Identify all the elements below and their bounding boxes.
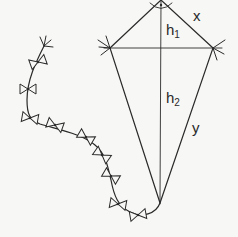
kite-figure (0, 0, 238, 237)
right-angle-dot (160, 4, 162, 6)
kite-tail (27, 46, 160, 215)
tail-bow (109, 198, 126, 211)
tail-bow (93, 146, 112, 163)
kite-outline (110, 0, 213, 203)
label-h2-sub: 2 (174, 97, 180, 108)
tail-bow (129, 209, 146, 222)
tail-bow (46, 118, 64, 133)
tail-bow (21, 112, 38, 125)
vertical-diagonal (160, 0, 161, 203)
label-y: y (192, 120, 200, 135)
label-h2: h2 (166, 90, 180, 108)
label-x: x (193, 8, 201, 23)
label-h1-sub: 1 (174, 29, 180, 40)
kite-diagram: x h1 h2 y (0, 0, 238, 237)
label-h1: h1 (166, 22, 180, 40)
tail-bow (29, 55, 47, 70)
tail-end-sparkle (40, 36, 53, 47)
right-vertex-sparkle (213, 40, 225, 60)
left-vertex-sparkle (98, 36, 110, 55)
